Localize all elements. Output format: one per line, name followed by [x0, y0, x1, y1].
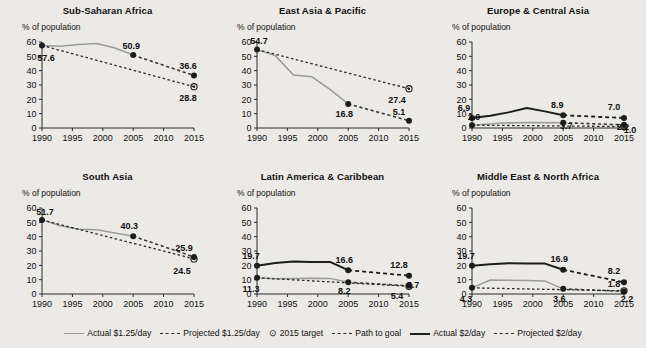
- y-tick-label: 60: [241, 203, 251, 213]
- data-value-label: 2.2: [621, 294, 634, 304]
- data-value-label: 50.9: [122, 41, 140, 51]
- x-tick-label: 1995: [492, 133, 512, 143]
- plot-area: 010203040506019901995200020052010201551.…: [22, 202, 208, 310]
- panel-title: South Asia: [0, 171, 215, 182]
- x-tick-label: 2005: [123, 133, 143, 143]
- plot-area: 010203040506019901995200020052010201554.…: [237, 36, 423, 144]
- y-axis-label: % of population: [22, 188, 81, 198]
- data-value-label: 4.3: [460, 294, 473, 304]
- y-tick-label: 20: [26, 95, 36, 105]
- plot-area: 010203040506019901995200020052010201519.…: [237, 202, 423, 310]
- x-tick-label: 2015: [184, 299, 204, 309]
- y-tick-label: 10: [26, 109, 36, 119]
- x-tick-label: 1995: [492, 299, 512, 309]
- y-axis-label: % of population: [452, 22, 511, 32]
- data-point-marker: [560, 112, 566, 118]
- data-point-marker: [469, 263, 475, 269]
- data-point-marker: [39, 42, 45, 48]
- legend-item: Path to goal: [332, 328, 401, 338]
- target-marker: [406, 86, 412, 92]
- data-point-marker: [469, 122, 475, 128]
- y-axis-label: % of population: [237, 188, 296, 198]
- y-tick-label: 20: [26, 261, 36, 271]
- y-tick-label: 40: [456, 232, 466, 242]
- data-value-label: 27.4: [388, 95, 406, 105]
- legend-item: Actual $1.25/day: [64, 328, 151, 338]
- x-tick-label: 2005: [338, 133, 358, 143]
- x-tick-label: 2010: [369, 133, 389, 143]
- data-point-marker: [621, 279, 627, 285]
- y-tick-label: 30: [456, 80, 466, 90]
- series-line: [472, 125, 624, 126]
- y-tick-label: 50: [26, 218, 36, 228]
- x-tick-label: 1990: [32, 299, 52, 309]
- y-tick-label: 50: [241, 52, 251, 62]
- series-line: [348, 270, 409, 275]
- x-tick-label: 2000: [523, 133, 543, 143]
- data-value-label: 5.4: [391, 291, 404, 301]
- data-point-marker: [345, 279, 351, 285]
- legend-swatch-icon: [332, 330, 352, 337]
- x-tick-label: 2015: [399, 133, 419, 143]
- plot-area: 010203040506019901995200020052010201519.…: [452, 202, 638, 310]
- data-point-marker: [254, 263, 260, 269]
- x-tick-label: 2010: [369, 299, 389, 309]
- legend-swatch-icon: [160, 330, 180, 337]
- legend-item: ⊙2015 target: [269, 328, 323, 338]
- panel-title: East Asia & Pacific: [215, 5, 430, 16]
- data-point-marker: [560, 267, 566, 273]
- x-tick-label: 2005: [553, 133, 573, 143]
- legend-item: Projected $2/day: [494, 328, 582, 338]
- data-value-label: 24.5: [173, 266, 191, 276]
- y-tick-label: 40: [241, 66, 251, 76]
- data-value-label: 40.3: [120, 221, 138, 231]
- y-tick-label: 40: [241, 232, 251, 242]
- x-tick-label: 2015: [184, 133, 204, 143]
- y-tick-label: 60: [456, 37, 466, 47]
- series-line: [472, 263, 563, 269]
- chart-panel: Middle East & North Africa% of populatio…: [430, 166, 646, 318]
- data-value-label: 16.9: [550, 254, 568, 264]
- data-value-label: 3.7: [560, 121, 573, 131]
- data-point-marker: [621, 115, 627, 121]
- y-tick-label: 20: [241, 95, 251, 105]
- y-tick-label: 0: [461, 123, 466, 133]
- y-tick-label: 10: [241, 109, 251, 119]
- panel-title: Europe & Central Asia: [430, 5, 646, 16]
- y-tick-label: 60: [26, 37, 36, 47]
- series-line: [472, 288, 624, 291]
- panel-title: Sub-Saharan Africa: [0, 5, 215, 16]
- data-value-label: 16.6: [335, 255, 353, 265]
- data-value-label: 12.8: [390, 260, 408, 270]
- series-line: [563, 115, 624, 118]
- data-point-marker: [130, 233, 136, 239]
- data-point-marker: [469, 285, 475, 291]
- x-tick-label: 2000: [308, 133, 328, 143]
- y-tick-label: 60: [26, 203, 36, 213]
- data-value-label: 19.7: [457, 251, 475, 261]
- data-point-marker: [254, 275, 260, 281]
- y-axis-label: % of population: [237, 22, 296, 32]
- data-point-marker: [254, 47, 260, 53]
- x-tick-label: 2010: [584, 299, 604, 309]
- legend-label: Path to goal: [355, 328, 401, 338]
- panel-title: Latin America & Caribbean: [215, 171, 430, 182]
- y-tick-label: 50: [241, 218, 251, 228]
- data-point-marker: [191, 73, 197, 79]
- chart-panel: East Asia & Pacific% of population010203…: [215, 0, 430, 166]
- legend-label: Projected $1.25/day: [183, 328, 259, 338]
- series-line: [42, 44, 133, 55]
- x-tick-label: 2000: [308, 299, 328, 309]
- series-line: [257, 50, 409, 89]
- data-value-label: 2.0: [468, 112, 481, 122]
- series-line: [42, 220, 194, 259]
- legend-label: Actual $2/day: [433, 328, 485, 338]
- data-point-marker: [39, 217, 45, 223]
- y-tick-label: 30: [26, 246, 36, 256]
- x-tick-label: 1995: [62, 299, 82, 309]
- data-point-marker: [406, 273, 412, 279]
- x-tick-label: 2000: [93, 133, 113, 143]
- y-tick-label: 50: [456, 218, 466, 228]
- series-line: [472, 122, 563, 125]
- y-axis-label: % of population: [22, 22, 81, 32]
